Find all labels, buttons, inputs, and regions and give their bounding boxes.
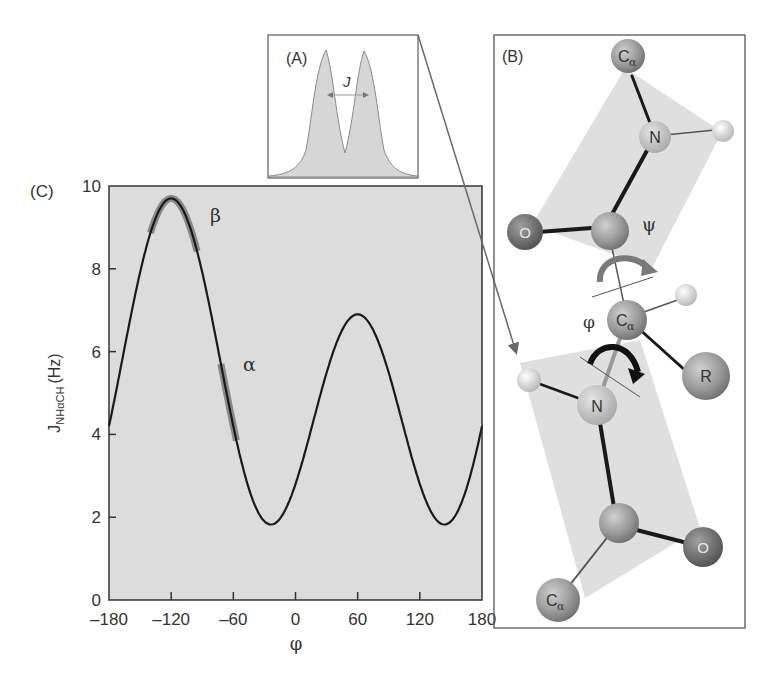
panel-b-peptide: (B) Cα (494, 35, 745, 628)
x-tick-label: 60 (348, 610, 367, 629)
panel-c-label: (C) (30, 182, 54, 201)
x-tick-label: 0 (291, 610, 300, 629)
plot-area (109, 186, 482, 600)
atom-h-top (712, 120, 734, 142)
svg-text:R: R (700, 368, 712, 385)
svg-text:N: N (591, 398, 603, 415)
svg-text:JNHαCH(Hz): JNHαCH(Hz) (46, 353, 66, 432)
panel-a-label: (A) (286, 50, 307, 67)
y-tick-label: 4 (92, 425, 101, 444)
atom-ca-bottom: Cα (536, 578, 580, 622)
svg-text:C: C (618, 48, 630, 65)
psi-rotation-arrow (600, 258, 648, 282)
svg-text:α: α (627, 320, 635, 333)
atom-carbonyl-c-bottom (599, 503, 639, 543)
y-tick-label: 6 (92, 343, 101, 362)
atom-r: R (682, 352, 730, 400)
atom-carbonyl-c-top (591, 212, 629, 250)
svg-text:O: O (519, 224, 531, 241)
panel-c-chart: 0246810 –180–120–60060120180 β α (C) JNH… (30, 177, 496, 654)
atom-h-bottom (517, 368, 541, 392)
panel-a-doublet: J (A) (268, 35, 418, 178)
j-label: J (342, 73, 351, 90)
x-tick-label: –60 (219, 610, 247, 629)
atom-h-mid (675, 284, 697, 306)
y-axis-label: JNHαCH(Hz) (46, 353, 66, 432)
atom-n-top: N (639, 121, 671, 153)
svg-text:C: C (616, 312, 628, 329)
alpha-label: α (243, 353, 256, 375)
atom-n-bottom: N (577, 385, 617, 425)
y-tick-label: 0 (92, 591, 101, 610)
phi-label: φ (583, 312, 595, 332)
beta-label: β (210, 204, 221, 226)
peptide-plane-bottom (520, 340, 700, 598)
x-tick-label: 120 (406, 610, 434, 629)
y-tick-label: 8 (92, 260, 101, 279)
atom-ca-top: Cα (611, 39, 645, 73)
atom-o-right: O (683, 527, 723, 567)
figure: 0246810 –180–120–60060120180 β α (C) JNH… (0, 0, 775, 692)
y-tick-label: 10 (82, 177, 101, 196)
psi-label: ψ (642, 214, 656, 235)
svg-text:O: O (697, 539, 709, 556)
svg-text:α: α (629, 56, 637, 69)
x-axis-label: φ (290, 633, 303, 654)
svg-text:N: N (649, 129, 661, 146)
x-tick-label: –180 (90, 610, 128, 629)
x-tick-label: 180 (468, 610, 496, 629)
y-tick-label: 2 (92, 508, 101, 527)
svg-text:C: C (546, 592, 558, 609)
atom-ca-mid: Cα (607, 300, 647, 340)
panel-b-label: (B) (502, 48, 523, 65)
atom-o-left: O (507, 214, 543, 250)
svg-text:α: α (557, 600, 565, 613)
x-tick-label: –120 (152, 610, 190, 629)
